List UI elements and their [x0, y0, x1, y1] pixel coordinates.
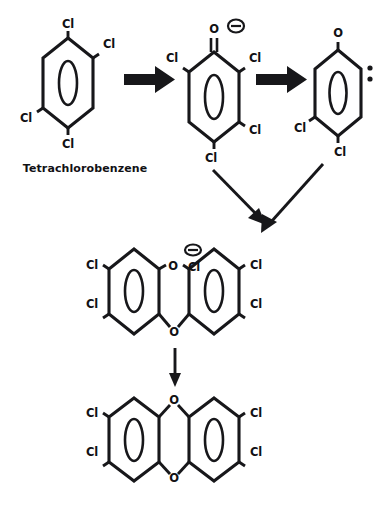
- arrow-shaft: [213, 170, 260, 218]
- bond-ether-right: [178, 314, 189, 327]
- reaction-arrow-5: [169, 348, 181, 387]
- atom-label-cl: Cl: [249, 51, 261, 65]
- structure-caption: Tetrachlorobenzene: [23, 162, 147, 175]
- atom-label-cl: Cl: [249, 123, 261, 137]
- aromatic-ring-ellipse-2: [205, 75, 223, 119]
- aromatic-ring-ellipse-1: [59, 61, 77, 105]
- aromatic-ring-ellipse-4-left: [125, 270, 143, 312]
- atom-label-cl: Cl: [62, 137, 74, 151]
- atom-label-o: O: [333, 26, 343, 40]
- atom-label-cl: Cl: [62, 17, 74, 31]
- atom-label-o: O: [169, 325, 179, 339]
- radical-dot-icon: [367, 65, 372, 70]
- radical-dot-icon: [367, 76, 372, 81]
- reaction-arrow-3: [213, 170, 266, 225]
- benzene-ring-outline-2: [189, 52, 239, 142]
- negative-charge-symbol: [185, 245, 201, 256]
- benzene-ring-outline-1: [43, 38, 93, 128]
- atom-label-cl: Cl: [250, 445, 262, 459]
- atom-label-cl: Cl: [334, 145, 346, 159]
- atom-label-cl: Cl: [166, 51, 178, 65]
- bond-dioxin-top-right: [178, 405, 189, 417]
- structure-tetrachlorodibenzo-p-dioxin: O O Cl Cl Cl Cl: [86, 393, 262, 485]
- bond-cl-left-upper-5: [103, 413, 109, 417]
- atom-label-cl: Cl: [103, 37, 115, 51]
- benzene-ring-outline-5-right: [189, 398, 239, 481]
- radical-dots: [367, 65, 372, 81]
- bond-cl-left-lower-4: [103, 314, 109, 318]
- negative-charge-symbol: [228, 20, 244, 33]
- aromatic-ring-ellipse-5-right: [205, 419, 223, 461]
- bond-cl-upper-left-2: [183, 68, 189, 72]
- atom-label-cl: Cl: [250, 297, 262, 311]
- atom-label-o: O: [209, 22, 219, 36]
- bond-o-top-4: [159, 265, 166, 269]
- atom-label-cl: Cl: [20, 111, 32, 125]
- reaction-arrow-2: [256, 66, 307, 93]
- benzene-ring-outline-4-left: [109, 249, 159, 334]
- aromatic-ring-ellipse-5-left: [125, 419, 143, 461]
- bold-arrow-right-icon: [256, 66, 307, 93]
- bond-cl-left-lower-5: [103, 462, 109, 466]
- atom-label-cl: Cl: [86, 258, 98, 272]
- bond-cl-lower-left-3: [309, 117, 315, 121]
- atom-label-o: O: [168, 259, 178, 273]
- atom-label-cl: Cl: [86, 297, 98, 311]
- atom-label-cl: Cl: [294, 121, 306, 135]
- atom-label-cl: Cl: [188, 260, 200, 274]
- aromatic-ring-ellipse-4-right: [205, 270, 223, 312]
- structure-chlorophenoxy-radical: O Cl Cl: [294, 26, 373, 159]
- bond-cl-upper-right-1: [93, 54, 99, 58]
- aromatic-ring-ellipse-3: [330, 72, 347, 114]
- bond-cl-right-upper-4: [239, 265, 245, 269]
- benzene-ring-outline-5-left: [109, 398, 159, 481]
- arrow-shaft: [271, 164, 323, 222]
- atom-label-cl: Cl: [86, 406, 98, 420]
- arrow-head-icon: [169, 373, 181, 387]
- bond-cl-upper-right-2: [239, 68, 245, 72]
- bond-cl-lower-right-2: [239, 122, 245, 126]
- atom-label-cl: Cl: [205, 151, 217, 165]
- bond-cl-right-lower-5: [239, 462, 245, 466]
- atom-label-o: O: [169, 393, 179, 407]
- bond-cl-lower-left-1: [37, 108, 43, 112]
- structure-tetrachlorobenzene: Cl Cl Cl Cl: [20, 17, 115, 151]
- bond-cl-left-upper-4: [103, 265, 109, 269]
- reaction-scheme-svg: Cl Cl Cl Cl Tetrachlorobenzene O Cl Cl C…: [0, 0, 384, 506]
- benzene-ring-outline-3: [315, 50, 361, 136]
- reaction-arrow-4: [261, 164, 323, 233]
- bond-cl-right-upper-5: [239, 413, 245, 417]
- atom-label-cl: Cl: [250, 406, 262, 420]
- atom-label-o: O: [169, 471, 179, 485]
- reaction-arrow-1: [124, 66, 175, 93]
- bold-arrow-right-icon: [124, 66, 175, 93]
- bond-dioxin-bottom-right: [178, 462, 189, 474]
- atom-label-cl: Cl: [250, 258, 262, 272]
- structure-predioxin-intermediate: O O Cl Cl Cl Cl Cl: [86, 245, 262, 340]
- reaction-scheme-canvas: Cl Cl Cl Cl Tetrachlorobenzene O Cl Cl C…: [0, 0, 384, 506]
- structure-tetrachlorophenolate: O Cl Cl Cl Cl: [166, 20, 261, 166]
- atom-label-cl: Cl: [86, 445, 98, 459]
- bond-cl-right-lower-4: [239, 314, 245, 318]
